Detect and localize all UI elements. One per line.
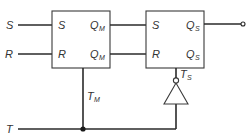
input-r-label: R bbox=[5, 48, 13, 60]
slave-flip-flop: S R Q S Q S bbox=[146, 11, 204, 68]
master-pin-q-comp-sub: M bbox=[99, 54, 105, 61]
slave-pin-s: S bbox=[152, 19, 160, 31]
slave-pin-q-comp: Q bbox=[186, 48, 195, 60]
master-pin-q-comp: Q bbox=[90, 48, 99, 60]
inverter-bubble-icon bbox=[173, 78, 178, 83]
input-s-label: S bbox=[6, 19, 14, 31]
slave-clock-label-sub: S bbox=[187, 74, 192, 81]
slave-pin-q-sub: S bbox=[195, 25, 200, 32]
slave-pin-q-comp-sub: S bbox=[195, 54, 200, 61]
master-pin-s: S bbox=[58, 19, 66, 31]
slave-pin-q: Q bbox=[186, 19, 195, 31]
slave-pin-r: R bbox=[152, 48, 160, 60]
inverter-triangle-icon bbox=[164, 83, 188, 104]
master-slave-sr-flip-flop-diagram: S R S R Q M Q M S R Q S Q S T M T T bbox=[0, 0, 250, 138]
junction-dot-icon bbox=[80, 126, 85, 131]
master-pin-r: R bbox=[58, 48, 66, 60]
clock-t-label: T bbox=[6, 123, 14, 135]
master-pin-q-sub: M bbox=[99, 25, 105, 32]
master-pin-q: Q bbox=[90, 19, 99, 31]
master-flip-flop: S R Q M Q M bbox=[52, 11, 110, 68]
output-terminal-icon bbox=[241, 22, 245, 26]
master-clock-label-sub: M bbox=[94, 96, 100, 103]
